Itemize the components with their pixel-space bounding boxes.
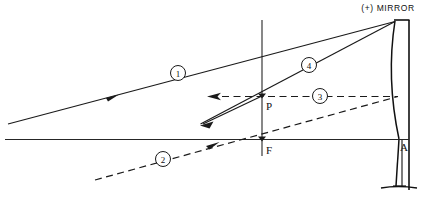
mirror-lower-stem bbox=[396, 139, 399, 186]
ray-tag-2: 2 bbox=[156, 152, 171, 167]
ray-tag-3-label: 3 bbox=[318, 92, 323, 102]
ray-1-path bbox=[8, 22, 395, 125]
ray-1-arrowhead bbox=[106, 95, 119, 102]
ray-4-incident bbox=[201, 22, 396, 125]
point-label-a: A bbox=[400, 141, 408, 153]
point-label-p: P bbox=[266, 100, 272, 112]
ray-tag-1: 1 bbox=[171, 66, 186, 81]
ray-1-incident bbox=[8, 22, 395, 125]
mirror-base-foot bbox=[381, 187, 417, 189]
ray-4-reflected bbox=[200, 96, 262, 128]
ray-4-reflected-path bbox=[203, 96, 262, 124]
ray-tag-4: 4 bbox=[302, 58, 317, 73]
ray-4-path bbox=[201, 22, 396, 125]
ray-2-dashed bbox=[95, 97, 398, 181]
ray-tag-1-label: 1 bbox=[176, 69, 181, 79]
ray-3-arrowhead bbox=[207, 93, 221, 100]
ray-tag-3: 3 bbox=[313, 89, 328, 104]
ray-tag-2-label: 2 bbox=[161, 155, 166, 165]
ray-diagram-figure: 1 2 3 4 P F A (+) MIRROR bbox=[0, 0, 425, 203]
ray-3-dashed-horizontal bbox=[207, 93, 398, 100]
ray-tag-4-label: 4 bbox=[307, 61, 312, 71]
mirror-label: (+) MIRROR bbox=[361, 3, 414, 13]
ray-2-path bbox=[95, 97, 398, 181]
mirror-reflective-arc bbox=[391, 21, 399, 139]
mirror-assembly bbox=[381, 20, 417, 190]
point-label-f: F bbox=[266, 144, 272, 156]
ray-diagram-canvas: 1 2 3 4 P F A (+) MIRROR bbox=[0, 0, 425, 203]
